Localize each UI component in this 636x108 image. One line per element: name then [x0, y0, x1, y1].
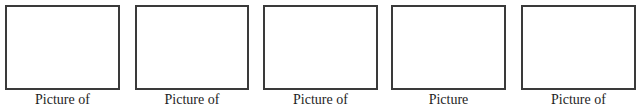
- picture-frame-5: [521, 5, 636, 90]
- picture-frame-2: [135, 5, 249, 90]
- picture-frame-4: [391, 5, 506, 90]
- picture-caption-5: Picture of: [521, 92, 636, 108]
- picture-frame-3: [263, 5, 378, 90]
- picture-caption-1: Picture of: [5, 92, 120, 108]
- picture-caption-4: Picture: [391, 92, 506, 108]
- picture-caption-3: Picture of: [263, 92, 378, 108]
- picture-frame-1: [5, 5, 120, 90]
- picture-caption-2: Picture of: [135, 92, 249, 108]
